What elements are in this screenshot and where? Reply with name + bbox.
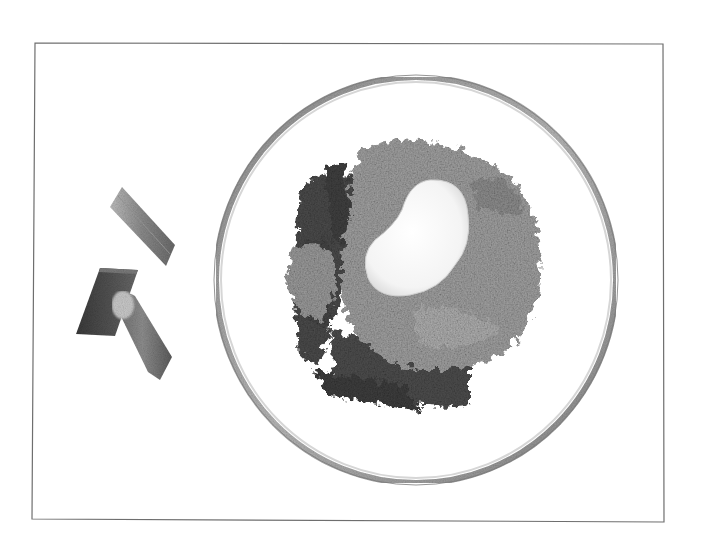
rhubarb-piece-top bbox=[110, 187, 175, 266]
rhubarb-piece-cut-end bbox=[112, 291, 172, 380]
photo bbox=[0, 0, 702, 556]
